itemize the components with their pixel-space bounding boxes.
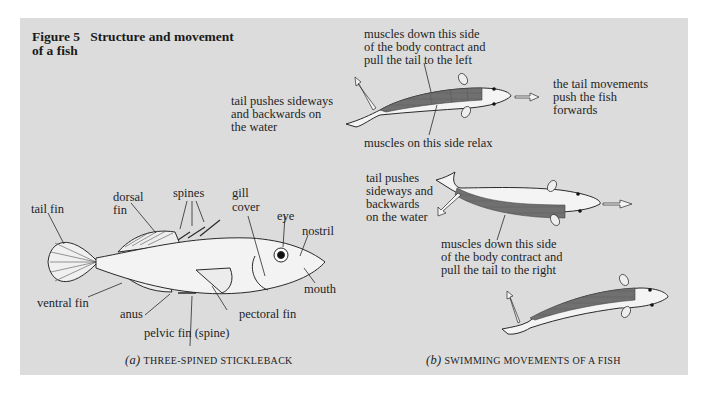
swimming-fish-bottom [502, 273, 668, 334]
label-pectoral-fin: pectoral fin [239, 308, 296, 321]
label-forward-3: forwards [553, 104, 597, 117]
label-top-contract-3: pull the tail to the left [364, 54, 472, 67]
label-pelvic-fin: pelvic fin (spine) [144, 327, 229, 340]
caption-b: (b)swimming movements of a fish [426, 353, 621, 368]
label-gill-cover-2: cover [232, 201, 260, 214]
label-dorsal-fin-2: fin [113, 204, 127, 217]
label-eye: eye [277, 210, 294, 223]
caption-a-letter: (a) [125, 353, 140, 367]
caption-b-letter: (b) [426, 353, 441, 367]
label-mouth: mouth [304, 283, 336, 296]
label-mid-contract-3: pull the tail to the right [441, 264, 556, 277]
label-spines: spines [173, 187, 204, 200]
label-top-tail-3: the water [231, 121, 277, 134]
label-gill-cover-1: gill [232, 187, 249, 200]
spines-shape [178, 220, 220, 240]
label-anus: anus [120, 308, 143, 321]
caption-a-text: three-spined stickleback [143, 355, 292, 366]
label-mid-tail-4: on the water [366, 211, 428, 224]
caption-a: (a)three-spined stickleback [125, 353, 293, 368]
stickleback-fish [48, 220, 325, 294]
label-ventral-fin: ventral fin [37, 297, 89, 310]
swimming-fish-top [346, 63, 539, 135]
diagram-artwork [0, 0, 708, 397]
caption-b-text: swimming movements of a fish [444, 355, 620, 366]
label-tail-fin: tail fin [31, 203, 64, 216]
label-top-relax: muscles on this side relax [364, 137, 492, 150]
swimming-fish-middle [436, 172, 632, 240]
label-nostril: nostril [302, 225, 334, 238]
